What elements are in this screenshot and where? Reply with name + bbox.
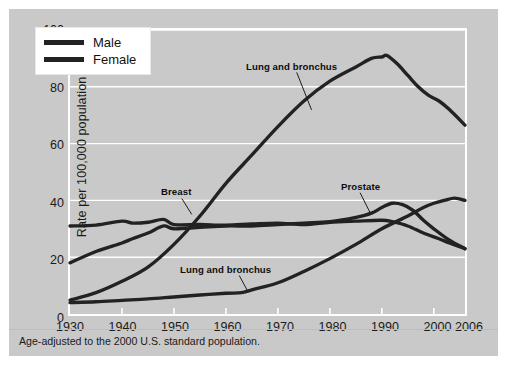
chart-legend: Male Female <box>35 27 151 75</box>
x-tick-label-2000: 2000 <box>424 320 452 334</box>
legend-swatch-male <box>44 40 84 45</box>
x-tick-label-1950: 1950 <box>161 320 189 334</box>
annotation-leader-line <box>239 276 247 291</box>
chart-footnote: Age-adjusted to the 2000 U.S. standard p… <box>19 335 260 347</box>
legend-item-female: Female <box>44 51 136 68</box>
chart-canvas: 020406080100 193019401950196019701980199… <box>9 9 498 356</box>
annotation-breast: Breast <box>161 186 191 197</box>
legend-label-female: Female <box>93 52 136 67</box>
x-tick-label-1980: 1980 <box>319 320 347 334</box>
x-tick-label-1960: 1960 <box>214 320 242 334</box>
x-tick-label-2006: 2006 <box>455 320 483 334</box>
annotation-female-lung: Lung and bronchus <box>180 264 271 275</box>
y-tick-label-40: 40 <box>50 196 64 210</box>
x-tick-label-1940: 1940 <box>109 320 137 334</box>
x-tick-label-1970: 1970 <box>266 320 294 334</box>
series-line-male-prostate <box>70 203 465 263</box>
annotation-male-lung: Lung and bronchus <box>246 61 337 72</box>
annotation-leader-line <box>360 193 370 213</box>
y-tick-label-80: 80 <box>50 81 64 95</box>
chart-figure: 020406080100 193019401950196019701980199… <box>0 0 507 365</box>
x-tick-label-1990: 1990 <box>371 320 399 334</box>
legend-label-male: Male <box>93 35 121 50</box>
series-line-female-lung-and-bronchus <box>70 198 465 303</box>
legend-item-male: Male <box>44 34 136 51</box>
annotation-leader-line <box>182 199 192 215</box>
x-tick-label-1930: 1930 <box>56 320 84 334</box>
series-line-female-breast <box>70 219 465 248</box>
legend-swatch-female <box>44 57 84 62</box>
footnote-divider <box>9 329 498 330</box>
y-tick-label-60: 60 <box>50 138 64 152</box>
y-tick-label-20: 20 <box>50 253 64 267</box>
annotation-prostate: Prostate <box>341 181 380 192</box>
